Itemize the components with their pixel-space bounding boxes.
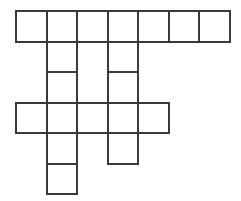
grid-cell-r4-c1[interactable] bbox=[46, 132, 79, 165]
grid-cell-r0-c6[interactable] bbox=[198, 10, 231, 43]
grid-cell-r0-c0[interactable] bbox=[15, 10, 48, 43]
grid-cell-r0-c3[interactable] bbox=[107, 10, 140, 43]
grid-cell-r5-c1[interactable] bbox=[46, 163, 79, 196]
grid-cell-r0-c5[interactable] bbox=[168, 10, 201, 43]
grid-cell-r0-c1[interactable] bbox=[46, 10, 79, 43]
grid-cell-r3-c4[interactable] bbox=[137, 102, 170, 135]
grid-cell-r2-c3[interactable] bbox=[107, 71, 140, 104]
grid-cell-r4-c3[interactable] bbox=[107, 132, 140, 165]
grid-cell-r3-c0[interactable] bbox=[15, 102, 48, 135]
crossword-grid[interactable] bbox=[0, 0, 241, 201]
crossword-puzzle bbox=[0, 0, 241, 201]
grid-cell-r3-c2[interactable] bbox=[76, 102, 109, 135]
grid-cell-r0-c4[interactable] bbox=[137, 10, 170, 43]
grid-cell-r1-c3[interactable] bbox=[107, 41, 140, 74]
grid-cell-r3-c1[interactable] bbox=[46, 102, 79, 135]
grid-cell-r0-c2[interactable] bbox=[76, 10, 109, 43]
grid-cell-r3-c3[interactable] bbox=[107, 102, 140, 135]
grid-cell-r2-c1[interactable] bbox=[46, 71, 79, 104]
grid-cell-r1-c1[interactable] bbox=[46, 41, 79, 74]
